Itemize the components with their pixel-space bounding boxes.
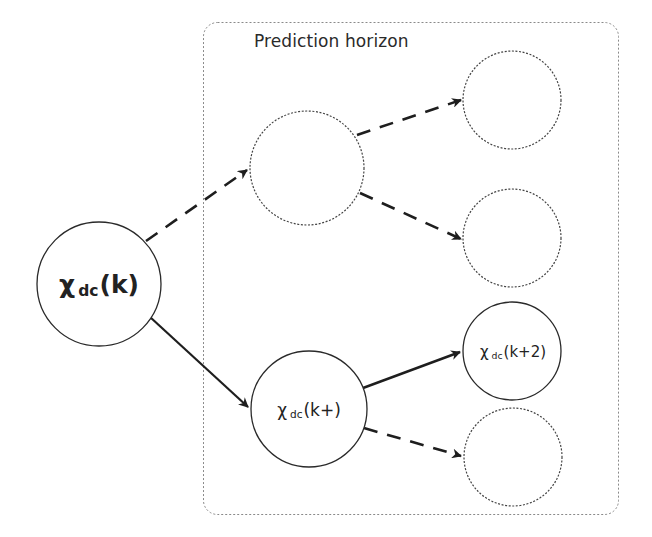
argument: (k) [99,270,138,299]
node-stage2-b [463,189,561,287]
subscript-dc: dc [78,281,98,299]
edge-stage1-lower-to-stage2-d [364,428,461,456]
chi-symbol: χ [59,270,75,299]
edge-root-to-stage1-lower [150,317,248,407]
argument: (k+2) [504,343,547,361]
node-stage2-a [463,51,561,149]
chi-symbol: χ [480,343,489,361]
node-stage2-d [464,408,562,506]
subscript-dc: dc [492,350,503,361]
node-stage2-c-label: χdc(k+2) [480,343,546,361]
edge-stage1-upper-to-stage2-a [357,100,461,135]
node-stage1-upper [250,111,364,225]
diagram-canvas [0,0,652,537]
node-root-label: χdc(k) [59,270,139,299]
mpc-prediction-tree-diagram: Prediction horizon χdc(k) χdc(k+) χdc(k+… [0,0,652,537]
edge-root-to-stage1-upper [146,170,247,241]
node-stage1-lower-label: χdc(k+) [277,400,341,420]
prediction-horizon-title: Prediction horizon [254,31,409,51]
subscript-dc: dc [290,408,302,420]
argument: (k+) [303,400,340,420]
edge-stage1-upper-to-stage2-b [360,193,461,239]
chi-symbol: χ [277,400,287,420]
edge-stage1-lower-to-stage2-c [363,352,460,388]
